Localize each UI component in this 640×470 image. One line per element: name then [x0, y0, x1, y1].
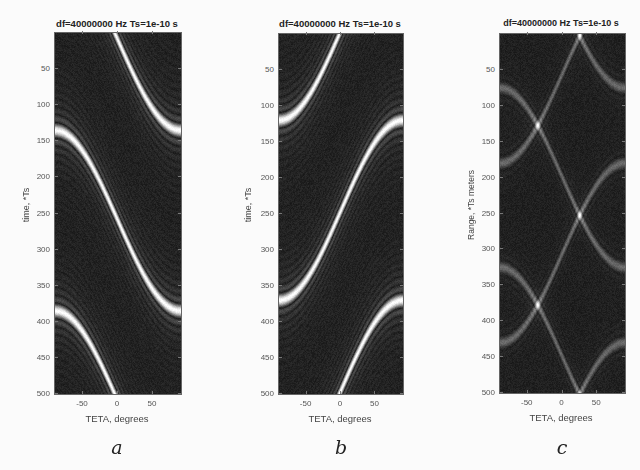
y-tick-label: 200 — [37, 172, 50, 181]
tick-mark — [500, 69, 503, 70]
panel-caption: b — [335, 436, 347, 458]
heatmap-plot — [278, 33, 404, 395]
tick-mark — [527, 390, 528, 393]
tick-mark — [622, 141, 625, 142]
y-axis-label: time, *Ts — [21, 188, 31, 223]
y-tick-label: 50 — [486, 64, 495, 73]
tick-mark — [562, 32, 563, 35]
y-tick-label: 500 — [37, 389, 50, 398]
tick-mark — [622, 213, 625, 214]
tick-mark — [178, 213, 181, 214]
tick-mark — [340, 391, 341, 394]
tick-mark — [500, 392, 503, 393]
y-tick-label: 400 — [261, 317, 274, 326]
tick-mark — [400, 69, 403, 70]
y-tick-label: 100 — [482, 100, 495, 109]
tick-mark — [527, 32, 528, 35]
tick-mark — [500, 248, 503, 249]
tick-mark — [178, 68, 181, 69]
tick-mark — [500, 105, 503, 106]
x-tick-label: -50 — [300, 399, 312, 408]
y-tick-label: 150 — [37, 136, 50, 145]
tick-mark — [55, 321, 58, 322]
x-tick-label: 50 — [148, 399, 157, 408]
tick-mark — [82, 391, 83, 394]
tick-mark — [306, 32, 307, 35]
x-tick-label: -50 — [76, 399, 88, 408]
tick-mark — [400, 141, 403, 142]
y-tick-label: 300 — [37, 244, 50, 253]
tick-mark — [622, 177, 625, 178]
tick-mark — [596, 32, 597, 35]
y-tick-label: 350 — [482, 280, 495, 289]
x-axis-label: TETA, degrees — [85, 413, 148, 424]
tick-mark — [178, 393, 181, 394]
tick-mark — [500, 320, 503, 321]
tick-mark — [622, 105, 625, 106]
x-tick-label: 0 — [338, 399, 342, 408]
tick-mark — [400, 249, 403, 250]
tick-mark — [279, 393, 282, 394]
tick-mark — [500, 284, 503, 285]
y-tick-label: 400 — [37, 316, 50, 325]
tick-mark — [117, 391, 118, 394]
tick-mark — [82, 31, 83, 34]
tick-mark — [400, 105, 403, 106]
y-tick-label: 200 — [482, 172, 495, 181]
y-tick-label: 250 — [37, 208, 50, 217]
tick-mark — [622, 248, 625, 249]
heatmap-plot — [499, 33, 626, 394]
tick-mark — [178, 249, 181, 250]
tick-mark — [55, 393, 58, 394]
y-tick-label: 50 — [41, 64, 50, 73]
tick-mark — [152, 391, 153, 394]
tick-mark — [279, 69, 282, 70]
tick-mark — [279, 321, 282, 322]
tick-mark — [400, 177, 403, 178]
tick-mark — [500, 356, 503, 357]
tick-mark — [178, 285, 181, 286]
x-axis-label: TETA, degrees — [308, 413, 371, 424]
tick-mark — [340, 32, 341, 35]
tick-mark — [178, 357, 181, 358]
tick-mark — [279, 213, 282, 214]
y-tick-label: 450 — [37, 352, 50, 361]
y-tick-label: 300 — [261, 245, 274, 254]
tick-mark — [152, 31, 153, 34]
tick-mark — [400, 285, 403, 286]
tick-mark — [622, 356, 625, 357]
tick-mark — [117, 31, 118, 34]
x-tick-label: 0 — [559, 398, 563, 407]
tick-mark — [178, 321, 181, 322]
x-tick-label: 0 — [115, 399, 119, 408]
tick-mark — [562, 390, 563, 393]
x-tick-label: -50 — [521, 398, 533, 407]
plot-title: df=40000000 Hz Ts=1e-10 s — [503, 18, 618, 28]
tick-mark — [622, 320, 625, 321]
y-tick-label: 250 — [482, 208, 495, 217]
tick-mark — [400, 321, 403, 322]
y-tick-label: 450 — [261, 353, 274, 362]
panel-caption: a — [111, 436, 122, 458]
y-tick-label: 250 — [261, 209, 274, 218]
plot-title: df=40000000 Hz Ts=1e-10 s — [56, 18, 178, 29]
panel-caption: c — [557, 436, 568, 458]
tick-mark — [178, 104, 181, 105]
y-tick-label: 150 — [261, 137, 274, 146]
tick-mark — [500, 177, 503, 178]
y-tick-label: 500 — [482, 388, 495, 397]
tick-mark — [279, 357, 282, 358]
heatmap-plot — [54, 32, 182, 395]
y-tick-label: 100 — [261, 101, 274, 110]
tick-mark — [622, 69, 625, 70]
plot-title: df=40000000 Hz Ts=1e-10 s — [279, 18, 401, 29]
tick-mark — [55, 140, 58, 141]
y-tick-label: 350 — [261, 281, 274, 290]
tick-mark — [279, 177, 282, 178]
tick-mark — [500, 213, 503, 214]
y-tick-label: 500 — [261, 389, 274, 398]
tick-mark — [279, 249, 282, 250]
tick-mark — [55, 104, 58, 105]
tick-mark — [596, 390, 597, 393]
x-tick-label: 50 — [370, 399, 379, 408]
